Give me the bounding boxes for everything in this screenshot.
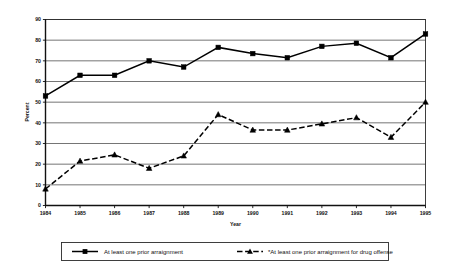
data-point-square: [112, 73, 117, 78]
chart-container: 0102030405060708090 19841985198619871988…: [0, 0, 450, 274]
plot-border: [46, 20, 426, 206]
data-point-square: [354, 41, 359, 46]
x-tick-label: 1989: [212, 210, 224, 216]
y-tick-label: 20: [35, 161, 41, 167]
y-tick-label: 40: [35, 120, 41, 126]
x-tick-label: 1991: [282, 210, 294, 216]
data-point-triangle: [354, 115, 360, 120]
data-point-triangle: [215, 112, 221, 117]
series-line: [46, 102, 426, 189]
data-point-square: [320, 44, 325, 49]
plot-frame: [46, 20, 426, 206]
chart-legend: At least one prior arraignment*At least …: [62, 243, 394, 261]
x-tick-label: 1993: [351, 210, 363, 216]
y-tick-label: 70: [35, 58, 41, 64]
x-axis-ticks: 1984198519861987198819891990199119921993…: [40, 206, 432, 217]
data-point-square: [181, 65, 186, 70]
x-axis-title: Year: [230, 221, 241, 227]
y-axis-ticks: 0102030405060708090: [35, 16, 45, 208]
data-point-square: [250, 51, 255, 56]
data-point-square: [43, 94, 48, 99]
x-tick-label: 1994: [385, 210, 397, 216]
x-tick-label: 1987: [143, 210, 155, 216]
y-tick-label: 60: [35, 78, 41, 84]
data-point-square: [423, 32, 428, 37]
x-tick-label: 1995: [420, 210, 432, 216]
y-tick-label: 50: [35, 99, 41, 105]
series-line: [46, 34, 426, 96]
y-axis-title: Percent: [24, 102, 30, 121]
data-point-square: [389, 55, 394, 60]
legend-marker-square: [83, 249, 88, 254]
legend-label-2: *At least one prior arraignment for drug…: [268, 249, 394, 255]
data-point-square: [216, 45, 221, 50]
y-tick-label: 80: [35, 37, 41, 43]
data-point-triangle: [77, 158, 83, 163]
data-point-triangle: [423, 99, 429, 104]
y-tick-label: 10: [35, 182, 41, 188]
x-tick-label: 1988: [178, 210, 190, 216]
line-chart: 0102030405060708090 19841985198619871988…: [0, 0, 450, 274]
x-tick-label: 1986: [109, 210, 121, 216]
data-point-square: [147, 59, 152, 64]
y-tick-label: 30: [35, 140, 41, 146]
x-tick-label: 1984: [40, 210, 52, 216]
axis-titles: PercentYear: [24, 102, 241, 227]
x-tick-label: 1985: [74, 210, 86, 216]
data-series: [43, 32, 429, 192]
x-tick-label: 1990: [247, 210, 259, 216]
x-tick-label: 1992: [316, 210, 328, 216]
data-point-square: [78, 73, 83, 78]
y-tick-label: 90: [35, 16, 41, 22]
gridlines: [46, 20, 426, 206]
legend-label-1: At least one prior arraignment: [104, 249, 183, 255]
y-tick-label: 0: [38, 202, 41, 208]
data-point-square: [285, 55, 290, 60]
